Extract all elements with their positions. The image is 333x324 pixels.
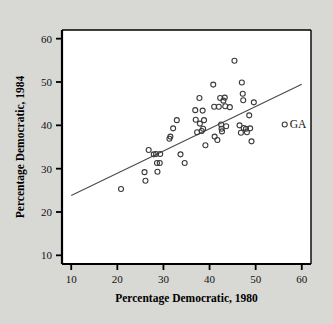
y-tick-label: 30: [41, 163, 53, 175]
x-axis-title: Percentage Democratic, 1980: [115, 292, 258, 305]
y-axis-title: Percentage Democratic, 1984: [14, 75, 27, 218]
x-tick-label: 60: [296, 273, 308, 285]
x-tick-label: 50: [250, 273, 262, 285]
x-tick-label: 20: [112, 273, 124, 285]
x-tick-label: 40: [204, 273, 216, 285]
y-tick-label: 50: [41, 76, 53, 88]
legend-label: GA: [290, 118, 307, 130]
y-tick-label: 60: [41, 33, 53, 45]
y-tick-label: 20: [41, 206, 53, 218]
scatter-plot-figure: 102030405060102030405060 GA Percentage D…: [0, 0, 333, 324]
chart-canvas: 102030405060102030405060 GA Percentage D…: [0, 0, 333, 324]
y-tick-label: 10: [41, 249, 53, 261]
y-tick-label: 40: [41, 119, 53, 131]
x-tick-label: 10: [66, 273, 78, 285]
plot-area-background: [62, 30, 311, 264]
x-tick-label: 30: [158, 273, 170, 285]
